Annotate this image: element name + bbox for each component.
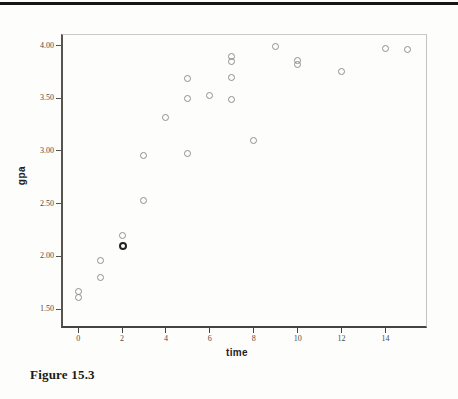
y-tick-mark	[56, 203, 61, 204]
x-tick-label: 4	[155, 335, 177, 343]
data-point	[75, 294, 82, 301]
y-tick-label: 2.00	[28, 252, 54, 260]
x-tick-label: 10	[287, 335, 309, 343]
data-point	[119, 242, 127, 250]
data-point	[228, 74, 235, 81]
data-point	[206, 92, 213, 99]
x-tick-label: 0	[67, 335, 89, 343]
x-axis-title: time	[226, 347, 248, 358]
y-tick-mark	[56, 45, 61, 46]
y-axis-title: gpa	[16, 166, 27, 185]
x-tick-mark	[165, 328, 166, 333]
y-tick-label: 4.00	[28, 42, 54, 50]
y-tick-label: 1.50	[28, 305, 54, 313]
page-top-rule	[0, 2, 458, 5]
x-tick-mark	[385, 328, 386, 333]
data-point	[97, 274, 104, 281]
y-tick-label: 3.50	[28, 94, 54, 102]
x-tick-mark	[253, 328, 254, 333]
x-tick-mark	[122, 328, 123, 333]
x-tick-label: 14	[375, 335, 397, 343]
y-tick-mark	[56, 150, 61, 151]
x-tick-mark	[78, 328, 79, 333]
x-tick-label: 12	[331, 335, 353, 343]
data-point	[228, 53, 235, 60]
figure-caption: Figure 15.3	[30, 367, 95, 383]
data-point	[119, 232, 126, 239]
plot-frame	[61, 34, 427, 328]
y-tick-label: 3.00	[28, 147, 54, 155]
y-tick-mark	[56, 309, 61, 310]
data-point	[97, 257, 104, 264]
x-tick-mark	[297, 328, 298, 333]
x-tick-label: 6	[199, 335, 221, 343]
scanned-page: gpa time 4.003.503.002.502.001.500246810…	[0, 0, 458, 399]
x-tick-label: 8	[243, 335, 265, 343]
x-tick-mark	[341, 328, 342, 333]
y-tick-mark	[56, 98, 61, 99]
data-point	[184, 150, 191, 157]
y-tick-mark	[56, 256, 61, 257]
y-tick-label: 2.50	[28, 200, 54, 208]
x-tick-mark	[209, 328, 210, 333]
x-tick-label: 2	[111, 335, 133, 343]
